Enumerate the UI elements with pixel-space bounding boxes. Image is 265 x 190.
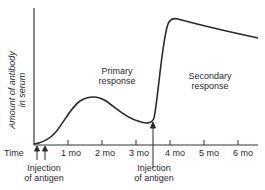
y-axis-label: Amount of antibody in serum (7, 35, 27, 145)
tick-label-1mo: 1 mo (56, 148, 86, 158)
antibody-response-diagram (0, 0, 265, 190)
tick-label-5mo: 5 mo (194, 148, 224, 158)
primary-response-label: Primary response (92, 66, 142, 86)
secondary-response-label: Secondary response (178, 71, 242, 91)
tick-label-6mo: 6 mo (228, 148, 258, 158)
arrow-up-icon (35, 146, 40, 151)
injection-label-first: Injection of antigen (16, 163, 72, 183)
time-label: Time (4, 148, 24, 158)
tick-label-2mo: 2 mo (90, 148, 120, 158)
tick-label-4mo: 4 mo (160, 148, 190, 158)
arrow-up-icon (151, 122, 156, 128)
y-axis-label-line2: in serum (17, 35, 27, 145)
arrow-up-icon (43, 146, 48, 151)
tick-label-3mo: 3 mo (124, 148, 154, 158)
injection-label-second: Injection of antigen (126, 163, 182, 183)
y-axis-label-line1: Amount of antibody (7, 35, 17, 145)
